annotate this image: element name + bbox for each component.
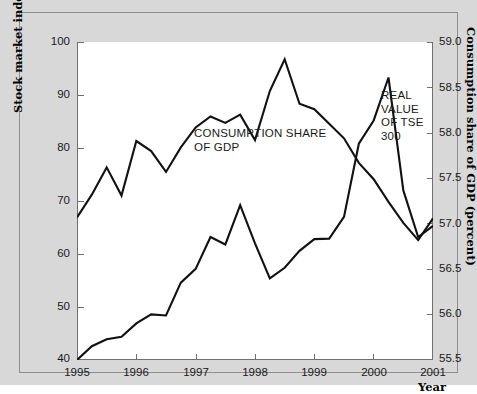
right-tick-label: 56.5 [439,263,461,274]
x-axis-title: Year [418,380,446,394]
x-tick-label: 2000 [344,366,404,378]
left-tick-label: 90 [36,89,70,100]
plot-area: CONSUMPTION SHARE OF GDP REAL VALUE OF T… [77,42,433,360]
x-tick-label: 1997 [166,366,226,378]
left-tick-label: 70 [36,195,70,206]
right-tick-label: 56.0 [439,308,461,319]
left-axis-title: Stock market index [11,0,25,113]
plot-svg [77,42,433,360]
x-tick-label: 1998 [225,366,285,378]
left-tick-label: 80 [36,142,70,153]
x-tick-label: 1999 [284,366,344,378]
series-line-tse300 [77,78,433,360]
left-tick-label: 40 [36,353,70,364]
right-tick-label: 55.5 [439,353,461,364]
right-tick-label: 57.5 [439,172,461,183]
right-tick-label: 58.5 [439,82,461,93]
x-tick-label: 1995 [47,366,107,378]
right-axis-title: Consumption share of GDP (percent) [464,27,477,266]
left-tick-label: 100 [36,36,70,47]
x-tick-label: 1996 [106,366,166,378]
annotation-tse300: REAL VALUE OF TSE 300 [381,89,433,143]
bottom-axis-ticks [78,354,433,360]
annotation-consumption-share: CONSUMPTION SHARE OF GDP [194,127,326,154]
right-tick-label: 58.0 [439,127,461,138]
left-tick-label: 50 [36,301,70,312]
left-tick-label: 60 [36,248,70,259]
right-tick-label: 57.0 [439,218,461,229]
figure-frame: CONSUMPTION SHARE OF GDP REAL VALUE OF T… [19,12,458,373]
left-axis-ticks [78,43,84,360]
x-tick-label: 2001 [403,366,463,378]
right-tick-label: 59.0 [439,36,461,47]
